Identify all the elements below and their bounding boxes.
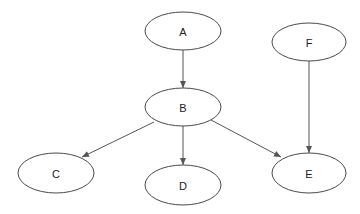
node-label: B (179, 102, 186, 114)
node-label: E (305, 168, 312, 180)
node-c[interactable]: C (18, 153, 94, 193)
node-a[interactable]: A (145, 12, 221, 50)
node-f[interactable]: F (272, 23, 346, 61)
node-label: F (306, 37, 313, 49)
node-label: C (52, 168, 60, 180)
node-label: D (179, 180, 187, 192)
nodes-layer: ABCDEF (18, 12, 346, 205)
edge-b-to-c (82, 122, 154, 157)
edge-b-to-e (211, 120, 281, 157)
node-b[interactable]: B (145, 88, 221, 126)
node-label: A (179, 26, 187, 38)
diagram-canvas: ABCDEF (0, 0, 360, 214)
node-d[interactable]: D (145, 165, 221, 205)
node-e[interactable]: E (272, 153, 346, 193)
